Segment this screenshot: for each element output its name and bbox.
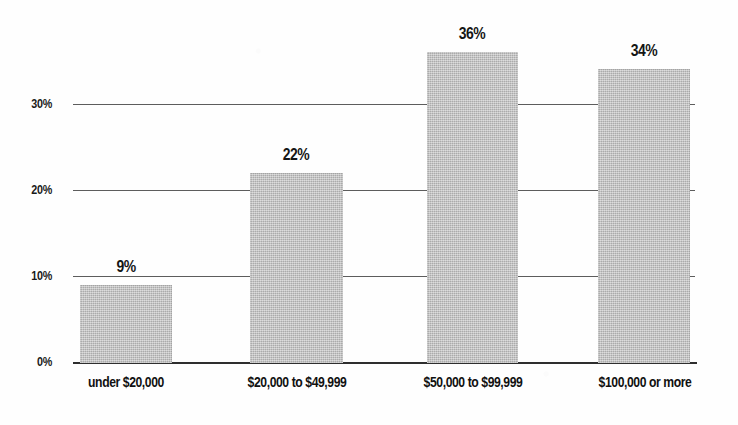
bar-100000-or-more[interactable] — [598, 69, 690, 363]
ytick-label-30: 30% — [0, 97, 52, 111]
category-label-100000-or-more: $100,000 or more — [575, 375, 714, 390]
bar-value-50000-to-99999: 36% — [439, 25, 505, 42]
ytick-label-20: 20% — [0, 183, 52, 197]
ytick-label-10: 10% — [0, 269, 52, 283]
ytick-label-0: 0% — [0, 355, 52, 369]
category-label-20000-to-49999: $20,000 to $49,999 — [226, 375, 369, 390]
category-label-50000-to-99999: $50,000 to $99,999 — [402, 375, 545, 390]
bar-50000-to-99999[interactable] — [427, 52, 518, 363]
category-label-under-20000: under $20,000 — [59, 375, 193, 390]
plot-area: 30% 20% 10% 0% 9% 22% 36% 34% under $20,… — [0, 0, 738, 425]
bar-chart: 30% 20% 10% 0% 9% 22% 36% 34% under $20,… — [0, 0, 738, 425]
bar-value-under-20000: 9% — [93, 258, 159, 275]
bar-20000-to-49999[interactable] — [250, 173, 343, 363]
bar-under-20000[interactable] — [80, 285, 172, 363]
bar-value-100000-or-more: 34% — [611, 42, 677, 59]
bar-value-20000-to-49999: 22% — [263, 146, 329, 163]
